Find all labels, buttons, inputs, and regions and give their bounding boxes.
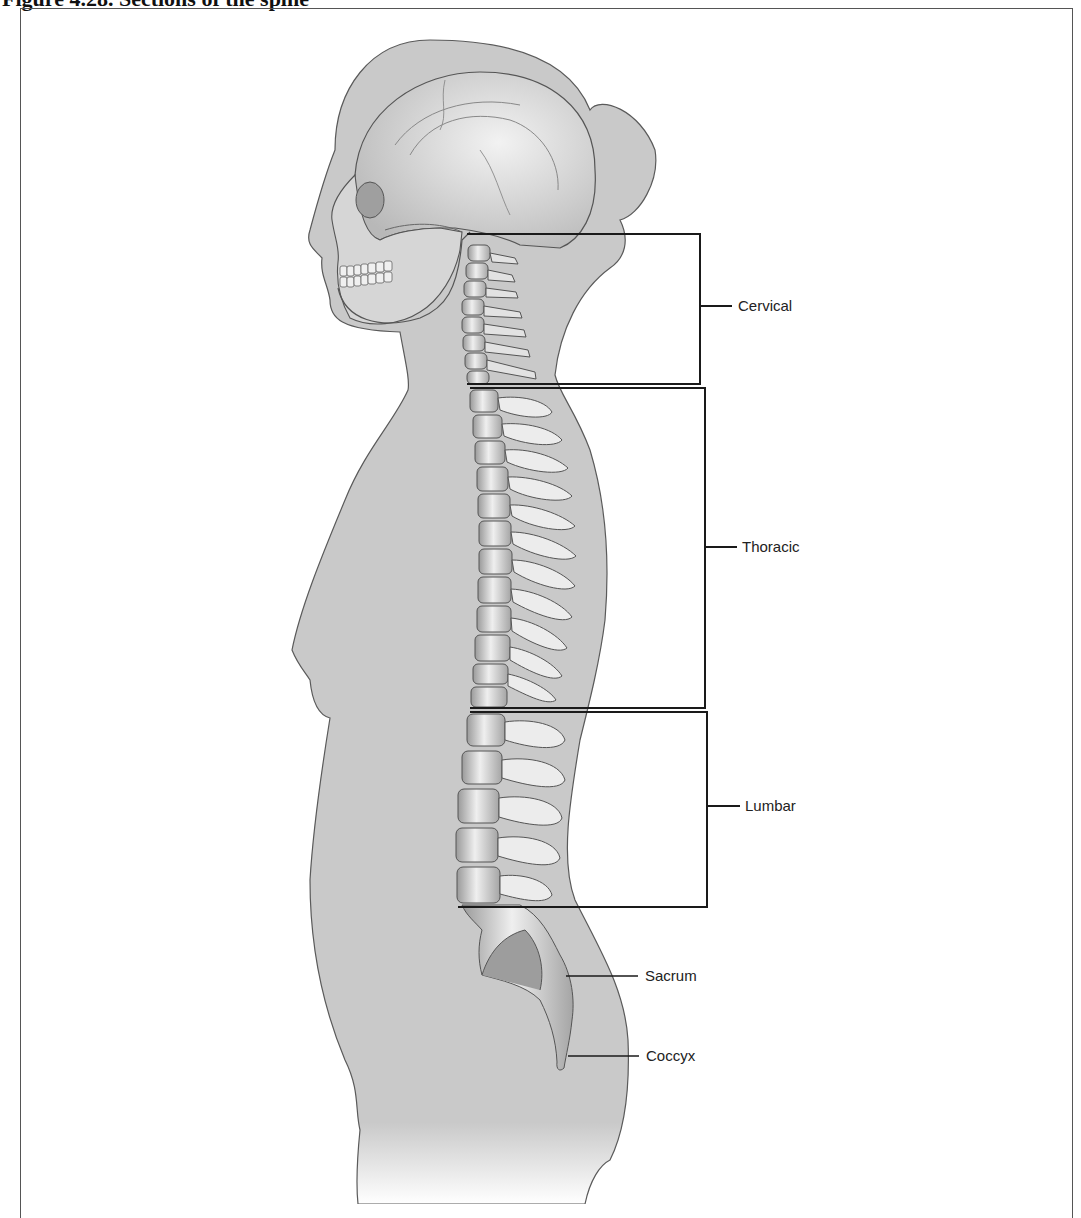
- label-lumbar: Lumbar: [745, 798, 796, 813]
- orbit: [356, 182, 384, 218]
- label-cervical: Cervical: [738, 298, 792, 313]
- label-thoracic: Thoracic: [742, 539, 800, 554]
- label-sacrum: Sacrum: [645, 968, 697, 983]
- label-coccyx: Coccyx: [646, 1048, 695, 1063]
